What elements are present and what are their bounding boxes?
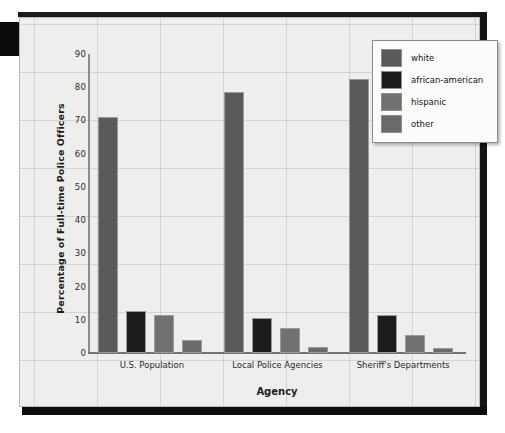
bar — [433, 348, 453, 353]
legend-item: white — [381, 47, 490, 69]
legend-swatch-icon — [381, 115, 402, 133]
legend-item: african-american — [381, 69, 490, 91]
bar — [126, 311, 146, 353]
y-tick-label: 80 — [34, 82, 86, 92]
legend-label: hispanic — [411, 97, 446, 107]
y-tick-label: 10 — [34, 315, 86, 325]
chart-legend: whiteafrican-americanhispanicother — [372, 40, 498, 143]
scanned-page: Percentage of Full-time Police Officers … — [0, 0, 505, 433]
bar — [349, 79, 369, 353]
y-tick-label: 60 — [34, 149, 86, 159]
y-tick-label: 0 — [34, 348, 86, 358]
y-tick-label: 20 — [34, 282, 86, 292]
legend-label: white — [411, 53, 434, 63]
scan-edge-bottom — [22, 406, 487, 415]
bar — [252, 318, 272, 353]
legend-item: other — [381, 113, 490, 135]
bar — [182, 340, 202, 353]
y-tick-label: 90 — [34, 49, 86, 59]
y-tick-label: 50 — [34, 182, 86, 192]
bar — [280, 328, 300, 353]
y-tick-label: 70 — [34, 115, 86, 125]
bar — [224, 92, 244, 353]
x-tick-label: Local Police Agencies — [232, 360, 323, 370]
bar — [308, 347, 328, 353]
bar — [377, 315, 397, 353]
bar — [98, 117, 118, 353]
legend-label: other — [411, 119, 434, 129]
x-tick-label: Sheriff's Departments — [357, 360, 450, 370]
bar — [154, 315, 174, 353]
legend-item: hispanic — [381, 91, 490, 113]
y-tick-label: 40 — [34, 215, 86, 225]
plot-area: Percentage of Full-time Police Officers … — [20, 18, 479, 406]
bar — [405, 335, 425, 353]
bar-chart-figure: Percentage of Full-time Police Officers … — [19, 17, 480, 407]
legend-swatch-icon — [381, 71, 402, 89]
legend-swatch-icon — [381, 93, 402, 111]
legend-label: african-american — [411, 75, 483, 85]
y-tick-label: 30 — [34, 248, 86, 258]
x-axis-label: Agency — [88, 386, 466, 397]
x-tick-label: U.S. Population — [120, 360, 184, 370]
legend-swatch-icon — [381, 49, 402, 67]
y-axis-ticks: 0102030405060708090 — [20, 18, 86, 406]
